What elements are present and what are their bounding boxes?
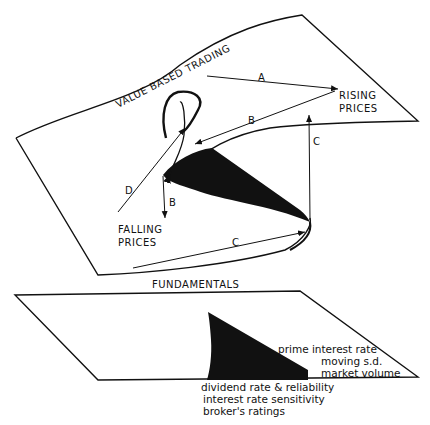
interest-sensitivity-label: interest rate sensitivity [203, 393, 325, 405]
hysteresis-loop [163, 92, 200, 138]
path-c-lower-arrow [133, 232, 305, 268]
fold-shading [163, 148, 310, 222]
path-d-label: D [125, 185, 133, 196]
moving-sd-label: moving s.d. [321, 355, 382, 367]
dividend-rate-label: dividend rate & reliability [201, 381, 334, 393]
catastrophe-diagram: VALUE BASED TRADING RISING PRICES FALLIN… [0, 0, 430, 425]
path-b-label: B [248, 115, 255, 126]
path-c-up-arrow [309, 115, 310, 220]
prime-interest-rate-label: prime interest rate [278, 343, 377, 355]
diagram-canvas: VALUE BASED TRADING RISING PRICES FALLIN… [0, 0, 430, 425]
path-c-lower-label: C [232, 237, 239, 248]
path-b-down-arrow [163, 176, 165, 218]
falling-label-2: PRICES [118, 237, 157, 248]
path-b-down-label: B [169, 197, 176, 208]
brokers-ratings-label: broker's ratings [203, 405, 285, 417]
path-c-label: C [313, 136, 320, 147]
fundamentals-label: FUNDAMENTALS [152, 279, 239, 290]
falling-label-1: FALLING [118, 224, 163, 235]
path-a-arrow [207, 76, 338, 89]
market-volume-label: market volume [321, 367, 401, 379]
path-a-label: A [258, 72, 265, 83]
value-based-trading-label: VALUE BASED TRADING [114, 42, 232, 109]
rising-label-1: RISING [339, 90, 376, 101]
rising-label-2: PRICES [339, 103, 378, 114]
